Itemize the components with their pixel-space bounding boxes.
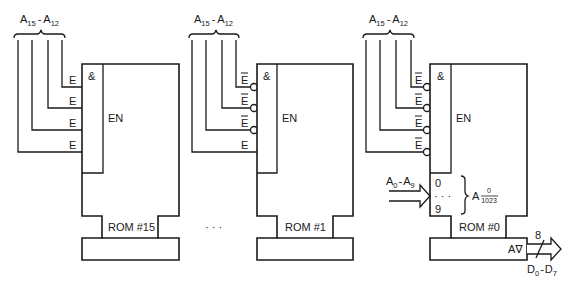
- and-symbol: &: [437, 70, 445, 82]
- enable-input-label: E: [69, 139, 76, 151]
- and-symbol: &: [263, 70, 271, 82]
- ellipsis: · · ·: [205, 221, 222, 233]
- address-bus-label: A15-A12: [194, 13, 233, 28]
- enable-input-label: E: [69, 95, 76, 107]
- and-symbol: &: [88, 70, 96, 82]
- address-range-label: A: [472, 190, 480, 202]
- enable-label: EN: [456, 112, 471, 124]
- brace: [189, 30, 239, 38]
- enable-input-label: E: [415, 95, 422, 107]
- rom-name: ROM #0: [459, 221, 500, 233]
- brace: [14, 30, 65, 38]
- brace: [363, 30, 414, 38]
- rom-decoding-diagram: A15-A12 E E E E & EN ROM #15 · · · A15-A…: [0, 0, 577, 290]
- rom-name: ROM #1: [285, 221, 326, 233]
- enable-label: EN: [108, 112, 123, 124]
- enable-input-label: E: [241, 139, 248, 151]
- bus-width-label: 8: [535, 229, 541, 241]
- enable-input-label: E: [69, 74, 76, 86]
- address-range-denominator: 1023: [481, 197, 497, 204]
- enable-input-label: E: [415, 117, 422, 129]
- address-pin-top: 0: [435, 177, 441, 189]
- data-output-label: D0-D7: [527, 263, 557, 278]
- enable-input-label: E: [415, 139, 422, 151]
- enable-input-label: E: [69, 117, 76, 129]
- address-pin-dots: · · ·: [434, 190, 451, 202]
- address-bus-label: A15-A12: [20, 13, 59, 28]
- address-input-label: A0-A9: [386, 175, 415, 190]
- enable-label: EN: [282, 112, 297, 124]
- enable-input-label: E: [241, 117, 248, 129]
- rom-name: ROM #15: [108, 221, 155, 233]
- enable-input-label: E: [241, 95, 248, 107]
- address-wire: [48, 40, 82, 108]
- enable-input-label: E: [415, 74, 422, 86]
- address-bus-label: A15-A12: [369, 13, 408, 28]
- output-type-symbol: A∇: [508, 243, 523, 255]
- address-pin-bottom: 9: [435, 203, 441, 215]
- rom-0-block: A15-A12 E E E E & EN ROM #0 0 · · · 9: [363, 13, 561, 278]
- enable-input-label: E: [241, 74, 248, 86]
- rom-15-block: A15-A12 E E E E & EN ROM #15: [14, 13, 179, 260]
- address-range-numerator: 0: [487, 187, 491, 194]
